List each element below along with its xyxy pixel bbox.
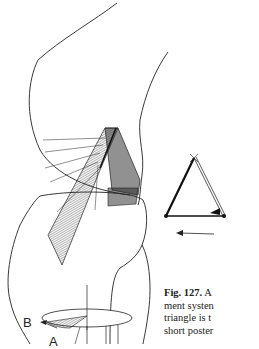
label-a: A [49, 335, 58, 348]
tibia-outline-right [142, 245, 150, 344]
caption-line-2: ment systen [164, 300, 259, 313]
caption-figure-number: Fig. 127. [164, 287, 202, 298]
arrow-left-icon [176, 230, 214, 236]
inset-triangle [164, 154, 226, 218]
posterior-insertion [108, 188, 138, 206]
posterior-cruciate-ligament [105, 128, 140, 195]
figure-caption: Fig. 127. A ment systen triangle is t sh… [164, 287, 259, 337]
label-b: B [23, 316, 32, 329]
caption-line-1: A [202, 287, 212, 298]
caption-line-4: short poster [164, 325, 259, 338]
femur-condyle-right [138, 52, 168, 205]
caption-line-3: triangle is t [164, 312, 259, 325]
